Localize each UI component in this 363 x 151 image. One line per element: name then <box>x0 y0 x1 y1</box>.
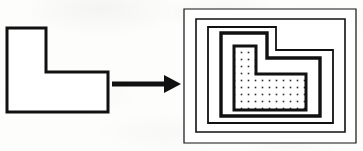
transformation-arrow <box>112 75 181 93</box>
source-l-polygon <box>7 28 108 112</box>
right-panel-group <box>184 9 356 143</box>
arrow-head-icon <box>164 75 181 93</box>
left-panel-group <box>7 28 108 112</box>
offset-contour-figure <box>0 0 363 151</box>
figure-canvas <box>0 0 363 151</box>
